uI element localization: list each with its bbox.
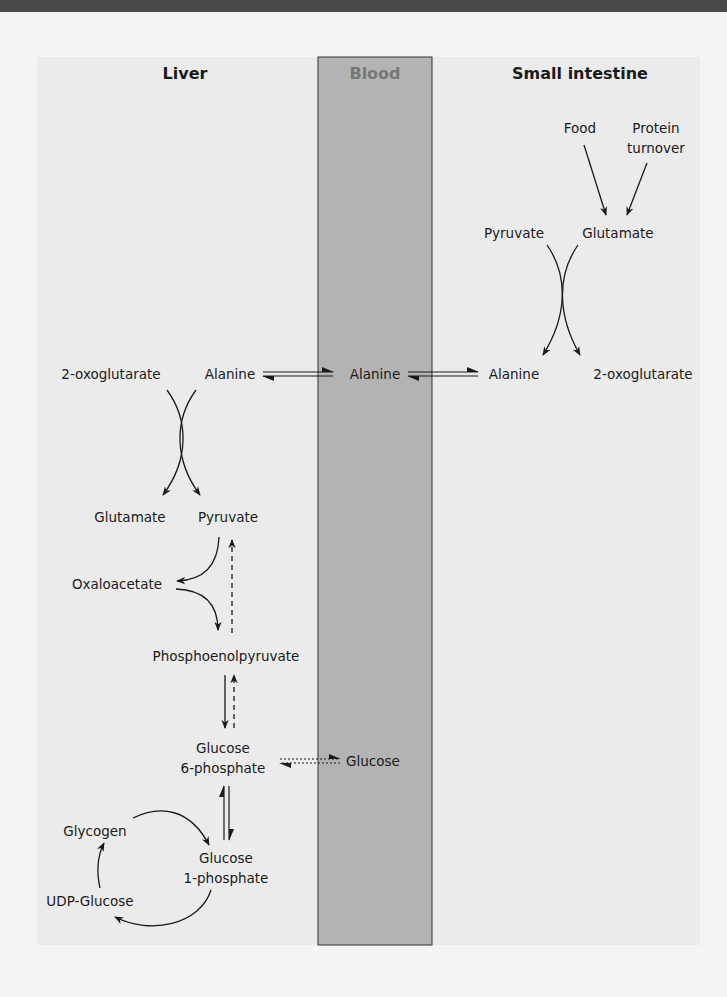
label-blood-glucose: Glucose (346, 753, 400, 769)
label-blood-alanine: Alanine (350, 366, 400, 382)
label-g1p-line1: Glucose (199, 850, 253, 866)
label-udp-glucose: UDP-Glucose (46, 893, 133, 909)
header-liver: Liver (163, 64, 208, 83)
arrow-pyruvate-oxaloacetate (177, 537, 219, 581)
arrow-protein-glutamate (627, 163, 647, 215)
arrow-food-glutamate (584, 145, 606, 215)
label-si-oxoglutarate: 2-oxoglutarate (593, 366, 692, 382)
arrow-glycogen-g1p (133, 811, 209, 845)
blood-column (318, 57, 432, 945)
label-g6p-line2: 6-phosphate (181, 760, 266, 776)
label-liver-pyruvate: Pyruvate (198, 509, 258, 525)
label-turnover: turnover (627, 140, 685, 156)
header-small-intestine: Small intestine (512, 64, 648, 83)
label-pep: Phosphoenolpyruvate (153, 648, 300, 664)
arrow-si-pyruvate-alanine (543, 245, 562, 355)
label-liver-glutamate: Glutamate (94, 509, 165, 525)
label-si-alanine: Alanine (489, 366, 539, 382)
arrow-oxaloacetate-pep (176, 589, 218, 630)
label-food: Food (564, 120, 596, 136)
arrow-udp-glucose-glycogen (98, 843, 104, 888)
label-liver-oxoglutarate: 2-oxoglutarate (61, 366, 160, 382)
label-oxaloacetate: Oxaloacetate (72, 576, 162, 592)
label-glycogen: Glycogen (63, 823, 126, 839)
label-g1p-line2: 1-phosphate (184, 870, 269, 886)
label-si-glutamate: Glutamate (582, 225, 653, 241)
label-si-pyruvate: Pyruvate (484, 225, 544, 241)
label-protein: Protein (632, 120, 679, 136)
header-blood: Blood (349, 64, 400, 83)
label-g6p-line1: Glucose (196, 740, 250, 756)
label-liver-alanine: Alanine (205, 366, 255, 382)
alanine-cycle-diagram: Liver Blood Small intestine Food Protein… (0, 0, 727, 997)
arrow-si-glutamate-oxoglutarate (562, 245, 580, 355)
